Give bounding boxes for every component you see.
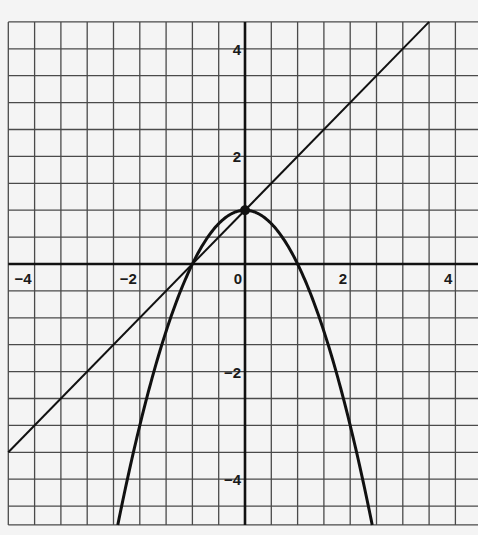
x-tick-label: 0 <box>234 270 242 287</box>
x-tick-label: −4 <box>14 270 32 287</box>
x-tick-label: 2 <box>339 270 347 287</box>
vertex-point <box>240 205 250 215</box>
x-tick-label: 4 <box>444 270 453 287</box>
x-tick-label: −2 <box>120 270 137 287</box>
y-tick-label: −4 <box>224 471 242 488</box>
y-tick-label: 2 <box>233 148 241 165</box>
y-tick-label: −2 <box>224 364 241 381</box>
plot-background <box>0 0 478 535</box>
y-tick-label: 4 <box>233 41 242 58</box>
coordinate-plot: −4−2024 42−2−4 <box>0 0 478 535</box>
points <box>240 205 250 215</box>
